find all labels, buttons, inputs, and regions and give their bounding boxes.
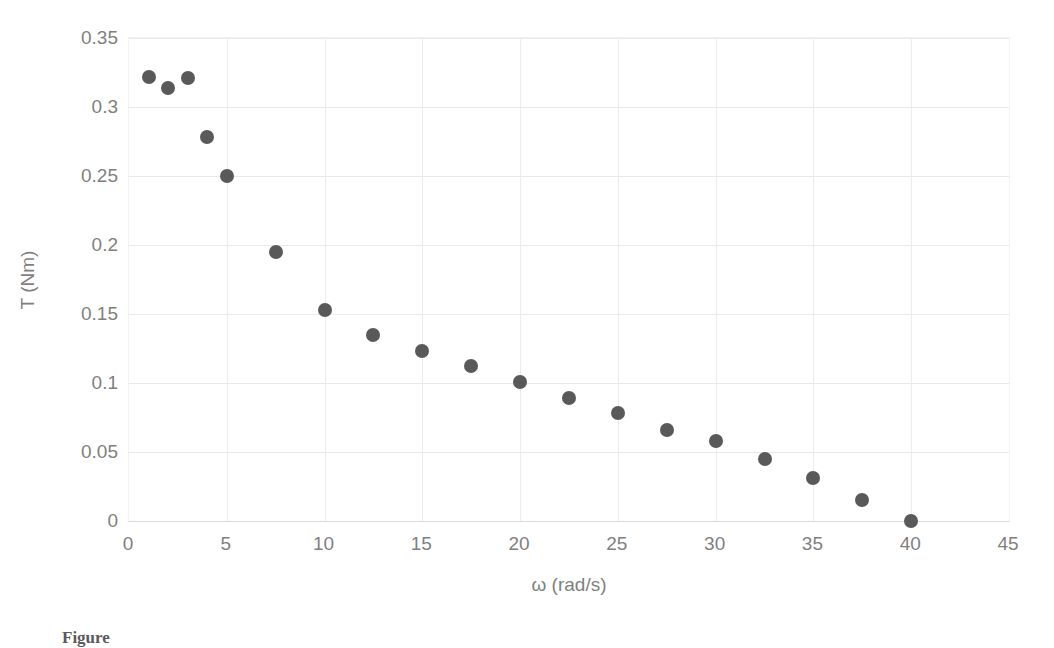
x-axis-tick-label: 35	[772, 534, 852, 553]
data-point	[855, 493, 869, 507]
plot-area	[128, 37, 1010, 522]
data-point	[709, 434, 723, 448]
gridline-horizontal	[129, 452, 1009, 453]
y-axis-tick-label: 0.2	[8, 235, 118, 254]
y-axis-tick-label: 0	[8, 511, 118, 530]
gridline-vertical	[618, 38, 619, 521]
data-point	[562, 391, 576, 405]
gridline-horizontal	[129, 107, 1009, 108]
data-point	[318, 303, 332, 317]
gridline-horizontal	[129, 38, 1009, 39]
y-axis-tick-label: 0.1	[8, 373, 118, 392]
gridline-vertical	[227, 38, 228, 521]
x-axis-tick-labels: 051015202530354045	[128, 534, 1010, 560]
gridline-vertical	[325, 38, 326, 521]
data-point	[904, 514, 918, 528]
gridline-horizontal	[129, 176, 1009, 177]
data-point	[220, 169, 234, 183]
gridline-horizontal	[129, 245, 1009, 246]
figure-caption-text: Figure	[62, 628, 110, 647]
y-axis-tick-label: 0.3	[8, 97, 118, 116]
gridline-horizontal	[129, 383, 1009, 384]
figure-caption: Figure	[62, 628, 110, 648]
gridline-vertical	[520, 38, 521, 521]
x-axis-tick-label: 10	[284, 534, 364, 553]
data-point	[464, 359, 478, 373]
x-axis-title: ω (rad/s)	[128, 574, 1010, 596]
data-point	[142, 70, 156, 84]
y-axis-tick-labels: 00.050.10.150.20.250.30.35	[0, 37, 118, 522]
gridline-horizontal	[129, 314, 1009, 315]
x-axis-tick-label: 25	[577, 534, 657, 553]
data-point	[660, 423, 674, 437]
gridline-vertical	[813, 38, 814, 521]
gridline-vertical	[716, 38, 717, 521]
data-point	[611, 406, 625, 420]
data-point	[415, 344, 429, 358]
y-axis-tick-label: 0.35	[8, 28, 118, 47]
x-axis-tick-label: 45	[968, 534, 1048, 553]
data-point	[161, 81, 175, 95]
x-axis-tick-label: 15	[381, 534, 461, 553]
gridline-vertical	[422, 38, 423, 521]
data-point	[200, 130, 214, 144]
x-axis-tick-label: 20	[479, 534, 559, 553]
data-point	[513, 375, 527, 389]
y-axis-tick-label: 0.25	[8, 166, 118, 185]
gridline-vertical	[911, 38, 912, 521]
data-point	[269, 245, 283, 259]
x-axis-tick-label: 5	[186, 534, 266, 553]
y-axis-tick-label: 0.05	[8, 442, 118, 461]
x-axis-tick-label: 30	[675, 534, 755, 553]
data-point	[366, 328, 380, 342]
data-point	[181, 71, 195, 85]
x-axis-tick-label: 40	[870, 534, 950, 553]
data-point	[758, 452, 772, 466]
y-axis-tick-label: 0.15	[8, 304, 118, 323]
data-point	[806, 471, 820, 485]
x-axis-tick-label: 0	[88, 534, 168, 553]
